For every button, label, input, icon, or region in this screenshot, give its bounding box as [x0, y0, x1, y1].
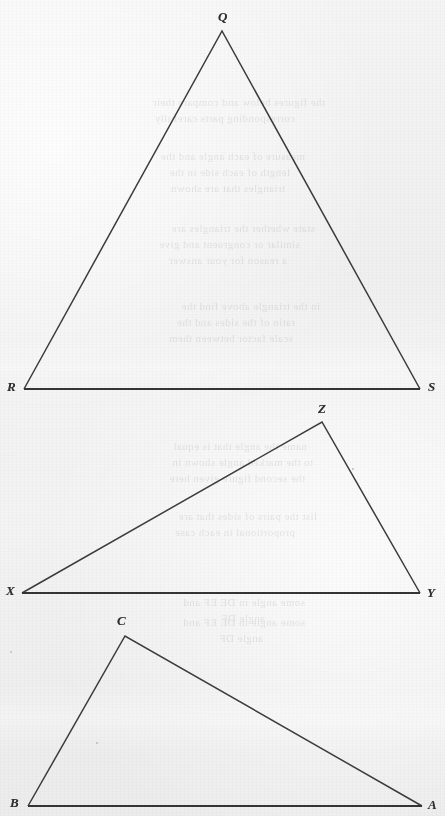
figure-triangle-abc: C B A: [0, 605, 445, 816]
triangle-abc-drawing: [0, 0, 445, 816]
vertex-label-b: B: [10, 796, 19, 809]
vertex-label-a: A: [428, 798, 437, 811]
vertex-label-c: C: [117, 614, 126, 627]
triangle-abc-legs: [28, 636, 422, 806]
scanned-page: the figures below and compare theircorre…: [0, 0, 445, 816]
